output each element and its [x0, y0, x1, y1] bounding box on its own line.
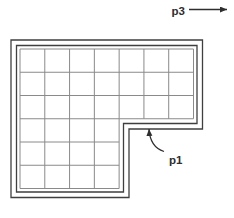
- arrow-layer: [149, 10, 227, 152]
- p1-label: p1: [169, 154, 183, 166]
- floor-plan-diagram: p3 p1: [0, 0, 234, 218]
- diagram-canvas: p3 p1: [0, 0, 234, 218]
- p1-arrow: [149, 129, 164, 152]
- tile-grid: [20, 49, 194, 189]
- p3-label: p3: [172, 5, 185, 17]
